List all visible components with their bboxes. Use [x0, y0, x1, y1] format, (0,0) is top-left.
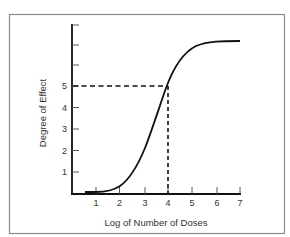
x-tick-label: 5 — [189, 198, 194, 208]
y-tick-label: 2 — [62, 146, 67, 156]
y-tick-label: 5 — [62, 81, 67, 91]
y-tick-label: 4 — [62, 103, 67, 113]
x-tick-labels: 1 2 3 4 5 6 7 — [93, 198, 242, 208]
y-ticks — [72, 25, 79, 172]
y-tick-labels: 1 2 3 4 5 — [62, 81, 67, 177]
dose-response-curve — [85, 41, 240, 192]
dose-response-chart: 1 2 3 4 5 1 2 3 4 5 6 7 Log of Number of… — [0, 0, 290, 237]
y-tick-label: 3 — [62, 124, 67, 134]
x-tick-label: 6 — [214, 198, 219, 208]
y-tick-label: 1 — [62, 167, 67, 177]
x-tick-label: 4 — [165, 198, 170, 208]
x-axis-title: Log of Number of Doses — [105, 217, 208, 228]
y-axis-title: Degree of Effect — [37, 78, 48, 147]
x-tick-label: 1 — [93, 198, 98, 208]
x-tick-label: 2 — [117, 198, 122, 208]
x-tick-label: 7 — [237, 198, 242, 208]
x-tick-label: 3 — [142, 198, 147, 208]
